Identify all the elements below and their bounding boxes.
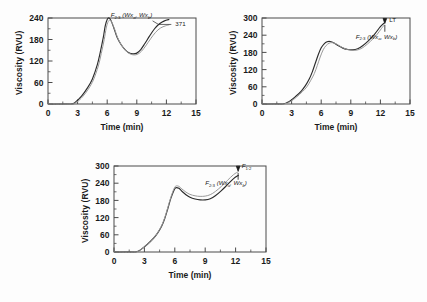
x-tick-label: 12 bbox=[376, 108, 386, 118]
y-tick-label: 300 bbox=[95, 161, 109, 171]
y-tick-label: 240 bbox=[243, 30, 257, 40]
x-axis-title: Time (min) bbox=[48, 122, 196, 132]
x-axis-title: Time (min) bbox=[262, 122, 410, 132]
lt-label: LT bbox=[389, 16, 396, 23]
y-tick-label: 0 bbox=[39, 99, 44, 109]
x-tick-label: 6 bbox=[172, 256, 177, 266]
x-tick-label: 0 bbox=[46, 108, 51, 118]
x-tick-label: 9 bbox=[134, 108, 139, 118]
y-axis-title: Viscosity (RVU) bbox=[80, 179, 90, 244]
x-axis-title: Time (min) bbox=[114, 270, 266, 280]
y-axis-title: Viscosity (RVU) bbox=[228, 31, 238, 96]
curve-sample-dark bbox=[114, 175, 239, 252]
rva-panel-a: 03691215060120180240F2:3 (Wxa, Wxb)371Vi… bbox=[8, 4, 204, 144]
x-tick-label: 15 bbox=[261, 256, 271, 266]
y-tick-label: 0 bbox=[253, 99, 258, 109]
x-tick-label: 9 bbox=[348, 108, 353, 118]
plot-frame bbox=[114, 166, 266, 252]
y-tick-label: 180 bbox=[29, 35, 43, 45]
y-tick-label: 120 bbox=[29, 56, 43, 66]
x-tick-label: 15 bbox=[405, 108, 415, 118]
line-number-label: 371 bbox=[175, 20, 186, 27]
x-tick-label: 0 bbox=[260, 108, 265, 118]
y-axis-title: Viscosity (RVU) bbox=[14, 31, 24, 96]
y-tick-label: 300 bbox=[243, 13, 257, 23]
y-tick-label: 0 bbox=[105, 247, 110, 257]
rva-panel-c: 03691215060120180240300F1:2F2:3 (Wxa, Wx… bbox=[74, 152, 274, 294]
plot-frame bbox=[262, 18, 410, 104]
plot-frame bbox=[48, 18, 196, 104]
x-tick-label: 6 bbox=[319, 108, 324, 118]
y-tick-label: 60 bbox=[100, 230, 110, 240]
y-tick-label: 60 bbox=[34, 78, 44, 88]
rva-panel-b: 03691215060120180240300LTF2:3 (Wxa, Wxb)… bbox=[222, 4, 418, 144]
x-tick-label: 0 bbox=[112, 256, 117, 266]
y-tick-label: 240 bbox=[95, 178, 109, 188]
y-tick-label: 120 bbox=[95, 213, 109, 223]
x-tick-label: 3 bbox=[75, 108, 80, 118]
genotype-label: F2:3 (Wxa, Wxb) bbox=[356, 33, 398, 42]
curve-sample-dark bbox=[48, 18, 169, 104]
x-tick-label: 15 bbox=[191, 108, 201, 118]
x-tick-label: 3 bbox=[142, 256, 147, 266]
x-tick-label: 3 bbox=[289, 108, 294, 118]
y-tick-label: 240 bbox=[29, 13, 43, 23]
y-tick-label: 180 bbox=[243, 48, 257, 58]
x-tick-label: 6 bbox=[105, 108, 110, 118]
y-tick-label: 180 bbox=[95, 196, 109, 206]
x-tick-label: 12 bbox=[231, 256, 241, 266]
y-tick-label: 120 bbox=[243, 65, 257, 75]
x-tick-label: 9 bbox=[203, 256, 208, 266]
y-tick-label: 60 bbox=[248, 82, 258, 92]
f12-label: F1:2 bbox=[242, 162, 252, 171]
x-tick-label: 12 bbox=[162, 108, 172, 118]
